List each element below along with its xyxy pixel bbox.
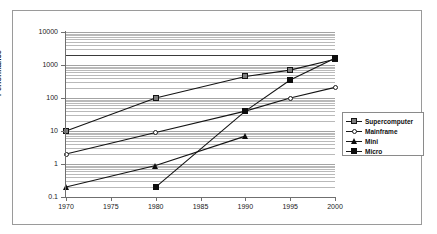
legend-item-micro[interactable]: Micro: [346, 146, 421, 156]
y-tick: [61, 65, 65, 66]
data-point-marker: [152, 163, 158, 169]
y-axis-title: Performance: [0, 50, 3, 96]
y-tick-label: 10000: [20, 28, 58, 35]
chart-legend: SupercomputerMainframeMiniMicro: [342, 112, 424, 156]
x-tick: [335, 197, 336, 201]
x-tick-label: 1985: [185, 203, 217, 210]
legend-item-label: Mini: [365, 137, 378, 146]
x-tick-label: 1970: [50, 203, 82, 210]
data-point-marker: [242, 73, 248, 79]
y-tick: [61, 164, 65, 165]
y-tick: [61, 131, 65, 132]
x-tick: [66, 197, 67, 201]
x-tick-label: 2000: [319, 203, 351, 210]
data-point-marker: [288, 96, 293, 101]
y-tick-label: 100: [20, 94, 58, 101]
x-tick-label: 1990: [229, 203, 261, 210]
data-point-marker: [287, 67, 293, 73]
y-tick-label: 0.1: [20, 193, 58, 200]
x-tick-label: 1980: [140, 203, 172, 210]
data-point-marker: [153, 184, 159, 190]
x-tick-label: 1975: [95, 203, 127, 210]
y-tick-label: 1: [20, 160, 58, 167]
legend-item-mini[interactable]: Mini: [346, 136, 421, 146]
legend-item-mainframe[interactable]: Mainframe: [346, 126, 421, 136]
x-tick: [245, 197, 246, 201]
y-tick-label: 1000: [20, 61, 58, 68]
legend-item-label: Mainframe: [365, 127, 398, 136]
series-line: [66, 87, 335, 154]
legend-marker-icon: [346, 147, 362, 156]
data-point-marker: [287, 77, 293, 83]
legend-item-label: Supercomputer: [365, 117, 413, 126]
data-point-marker: [242, 108, 248, 114]
chart-root: Performance 0.1110100100010000 197019751…: [0, 0, 437, 234]
x-tick: [290, 197, 291, 201]
y-tick: [61, 197, 65, 198]
series-lines: [66, 32, 335, 197]
legend-marker-icon: [346, 127, 362, 136]
y-tick: [61, 98, 65, 99]
plot-area: [66, 32, 335, 197]
series-line: [66, 59, 335, 131]
x-tick: [201, 197, 202, 201]
data-point-marker: [153, 95, 159, 101]
legend-item-supercomputer[interactable]: Supercomputer: [346, 116, 421, 126]
legend-item-label: Micro: [365, 147, 382, 156]
x-tick: [156, 197, 157, 201]
data-point-marker: [332, 55, 338, 61]
data-point-marker: [333, 85, 338, 90]
legend-marker-icon: [346, 137, 362, 146]
legend-marker-icon: [346, 117, 362, 126]
data-point-marker: [242, 133, 248, 139]
y-axis: [65, 31, 66, 198]
x-tick: [111, 197, 112, 201]
y-tick-label: 10: [20, 127, 58, 134]
y-tick: [61, 32, 65, 33]
x-tick-label: 1995: [274, 203, 306, 210]
